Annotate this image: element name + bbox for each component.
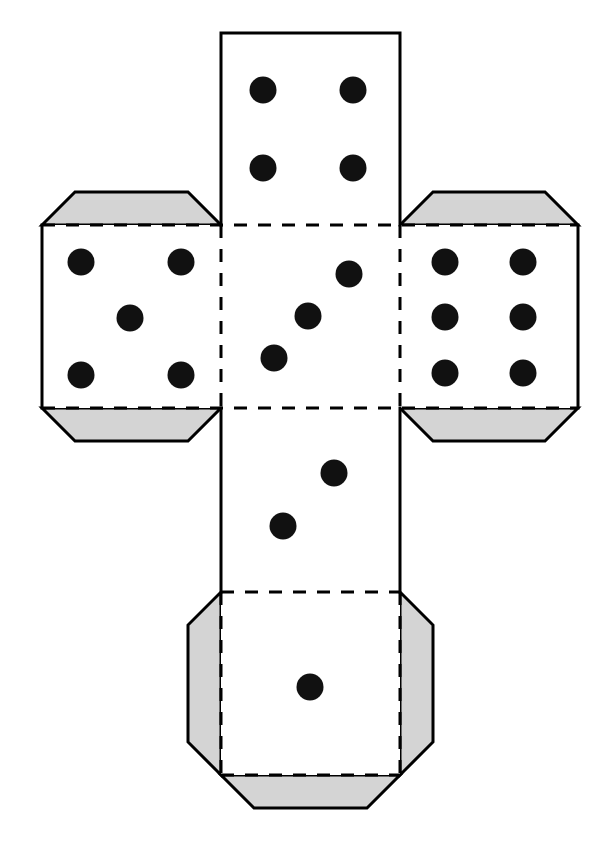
pip bbox=[340, 77, 367, 104]
dice-net-diagram bbox=[0, 0, 607, 852]
pip bbox=[250, 155, 277, 182]
tab-left-face-bottom bbox=[42, 408, 221, 441]
tab-right-face-top bbox=[400, 192, 578, 225]
face-top-panel bbox=[221, 33, 400, 225]
pip bbox=[510, 304, 537, 331]
tab-left-face-top bbox=[42, 192, 221, 225]
pip bbox=[68, 362, 95, 389]
pip bbox=[168, 249, 195, 276]
pip bbox=[270, 513, 297, 540]
tab-right-face-bottom bbox=[400, 408, 578, 441]
pip bbox=[168, 362, 195, 389]
pip bbox=[250, 77, 277, 104]
pip bbox=[510, 249, 537, 276]
pip bbox=[117, 305, 144, 332]
dice-net-canvas bbox=[0, 0, 607, 852]
face-right-panel bbox=[400, 225, 578, 408]
pip bbox=[510, 360, 537, 387]
face-lower-panel bbox=[221, 408, 400, 592]
pip bbox=[295, 303, 322, 330]
pip bbox=[297, 674, 324, 701]
tab-bottom-face-bottom bbox=[221, 775, 400, 808]
tab-bottom-face-left bbox=[188, 592, 221, 775]
pip bbox=[68, 249, 95, 276]
pip bbox=[432, 360, 459, 387]
pip bbox=[321, 460, 348, 487]
pip bbox=[261, 345, 288, 372]
pip bbox=[432, 304, 459, 331]
pip-group-face-bottom bbox=[297, 674, 324, 701]
pip bbox=[432, 249, 459, 276]
pip bbox=[340, 155, 367, 182]
pip bbox=[336, 261, 363, 288]
tab-bottom-face-right bbox=[400, 592, 433, 775]
